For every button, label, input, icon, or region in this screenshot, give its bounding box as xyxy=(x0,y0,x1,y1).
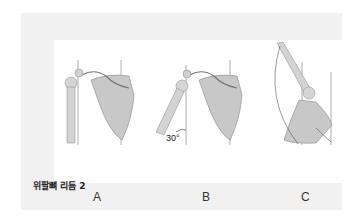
figure-caption: 위팔뼈 리듬 2 xyxy=(33,179,86,192)
panel-label-a: A xyxy=(93,190,101,204)
panel-b-drawing: 30° xyxy=(156,60,242,145)
angle-label: 30° xyxy=(166,133,180,143)
panel-label-c: C xyxy=(301,190,310,204)
panel-a-drawing xyxy=(65,60,134,145)
shoulder-illustration: 30° xyxy=(54,40,351,183)
panel-label-b: B xyxy=(202,190,210,204)
anatomy-illustration: 30° A B C xyxy=(54,40,351,183)
panel-c-drawing xyxy=(275,42,332,145)
figure-panel: 30° A B C 위팔뼈 리듬 2 xyxy=(21,13,342,210)
